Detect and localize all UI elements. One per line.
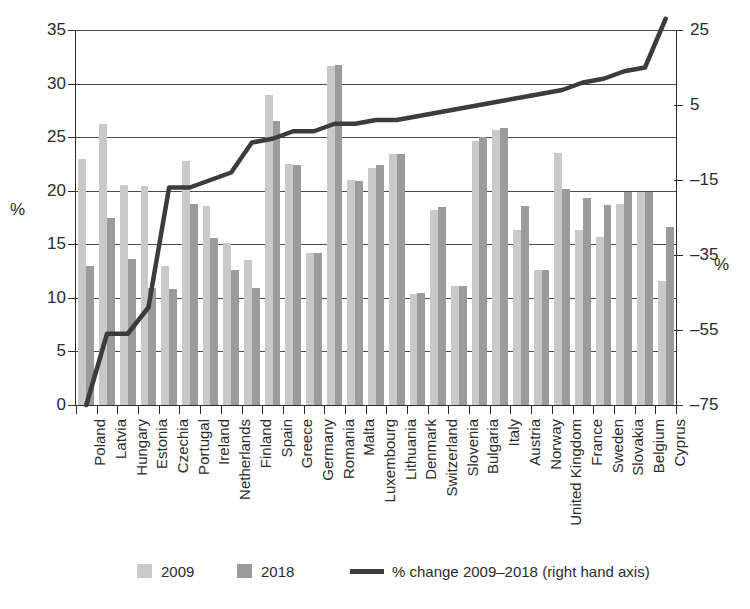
legend-item-change-2009-2018-right-hand-axis[interactable]: % change 2009–2018 (right hand axis): [350, 560, 650, 582]
legend-line-marker: [350, 569, 384, 574]
x-axis-label-switzerland: Switzerland: [444, 419, 459, 497]
x-axis-tick: [179, 405, 180, 414]
x-axis-label-spain: Spain: [279, 419, 294, 457]
x-axis-label-finland: Finland: [258, 419, 273, 468]
plot-area: [76, 30, 676, 405]
legend-color-swatch: [137, 564, 152, 578]
left-axis-title: %: [10, 200, 25, 220]
x-axis-label-norway: Norway: [548, 419, 563, 470]
x-axis-tick: [138, 405, 139, 414]
left-axis-tick-label: 15: [47, 235, 66, 252]
x-axis-tick: [97, 405, 98, 414]
x-axis-label-malta: Malta: [361, 419, 376, 456]
percent-change-line: [76, 30, 676, 405]
x-axis-label-cyprus: Cyprus: [672, 419, 687, 467]
left-axis-tick-label: 5: [57, 342, 66, 359]
x-axis-tick: [304, 405, 305, 414]
x-axis-tick: [324, 405, 325, 414]
x-axis-tick: [552, 405, 553, 414]
x-axis-spine: [70, 405, 682, 406]
left-axis-tick-label: 20: [47, 182, 66, 199]
x-axis-label-ireland: Ireland: [216, 419, 231, 465]
legend-item-2009[interactable]: 2009: [137, 560, 194, 582]
x-axis-tick: [200, 405, 201, 414]
x-axis-label-luxembourg: Luxembourg: [382, 419, 397, 502]
x-axis-tick: [221, 405, 222, 414]
chart-figure: % % 05101520253035–75–55–35–15525 Poland…: [0, 0, 750, 609]
x-axis-tick: [407, 405, 408, 414]
legend-label: 2009: [161, 563, 194, 580]
x-axis-tick: [510, 405, 511, 414]
left-axis-tick-label: 10: [47, 289, 66, 306]
x-axis-label-italy: Italy: [506, 419, 521, 447]
x-axis-tick: [676, 405, 677, 414]
x-axis-label-lithuania: Lithuania: [403, 419, 418, 480]
right-axis-tick-label: 5: [690, 96, 699, 113]
x-axis-tick: [614, 405, 615, 414]
x-axis-tick: [345, 405, 346, 414]
x-axis-tick: [386, 405, 387, 414]
x-axis-tick: [242, 405, 243, 414]
right-axis-tick-label: –15: [690, 171, 718, 188]
x-axis-tick: [593, 405, 594, 414]
left-axis-tick-label: 25: [47, 128, 66, 145]
x-axis-label-netherlands: Netherlands: [237, 419, 252, 500]
x-axis-label-romania: Romania: [341, 419, 356, 479]
right-axis-tick-label: –75: [690, 396, 718, 413]
left-axis-tick-label: 30: [47, 75, 66, 92]
x-axis-tick: [448, 405, 449, 414]
x-axis-tick: [262, 405, 263, 414]
x-axis-label-france: France: [589, 419, 604, 466]
x-axis-label-greece: Greece: [299, 419, 314, 468]
x-axis-label-united-kingdom: United Kingdom: [568, 419, 583, 526]
x-axis-tick: [469, 405, 470, 414]
x-axis-tick: [76, 405, 77, 414]
x-axis-label-austria: Austria: [527, 419, 542, 466]
right-axis-tick-label: 25: [690, 21, 709, 38]
right-axis-tick-label: –55: [690, 321, 718, 338]
x-axis-tick: [366, 405, 367, 414]
x-axis-label-portugal: Portugal: [196, 419, 211, 475]
x-axis-tick: [635, 405, 636, 414]
x-axis-label-slovenia: Slovenia: [465, 419, 480, 477]
x-axis-tick: [428, 405, 429, 414]
left-axis-tick-label: 0: [57, 396, 66, 413]
x-axis-label-bulgaria: Bulgaria: [485, 419, 500, 474]
x-axis-tick: [573, 405, 574, 414]
left-axis-tick-label: 35: [47, 21, 66, 38]
x-axis-tick: [490, 405, 491, 414]
x-axis-label-latvia: Latvia: [113, 419, 128, 459]
legend-color-swatch: [237, 564, 252, 578]
x-axis-tick: [117, 405, 118, 414]
x-axis-label-germany: Germany: [320, 419, 335, 481]
right-axis-tick-label: –35: [690, 246, 718, 263]
x-axis-tick: [283, 405, 284, 414]
x-axis-label-sweden: Sweden: [610, 419, 625, 473]
x-axis-label-czechia: Czechia: [175, 419, 190, 473]
x-axis-label-denmark: Denmark: [423, 419, 438, 480]
x-axis-label-hungary: Hungary: [134, 419, 149, 476]
right-axis-spine: [676, 30, 677, 406]
x-axis-label-estonia: Estonia: [154, 419, 169, 469]
legend-item-2018[interactable]: 2018: [237, 560, 294, 582]
x-axis-label-belgium: Belgium: [651, 419, 666, 473]
legend-label: % change 2009–2018 (right hand axis): [392, 563, 650, 580]
x-axis-label-poland: Poland: [92, 419, 107, 466]
x-axis-label-slovakia: Slovakia: [630, 419, 645, 476]
chart-legend: 20092018% change 2009–2018 (right hand a…: [0, 560, 750, 590]
x-axis-tick: [531, 405, 532, 414]
legend-label: 2018: [261, 563, 294, 580]
x-axis-tick: [655, 405, 656, 414]
x-axis-tick: [159, 405, 160, 414]
